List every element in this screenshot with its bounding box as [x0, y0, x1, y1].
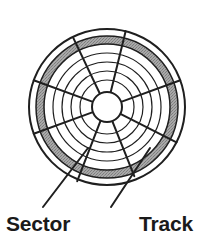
- platter-body: [29, 29, 185, 185]
- sector-label: Sector: [6, 213, 70, 234]
- track-label: Track: [139, 213, 193, 234]
- platter-center-hub: [92, 92, 122, 122]
- disk-platter-illustration: [0, 0, 213, 247]
- disk-platter-figure: Sector Track: [0, 0, 213, 247]
